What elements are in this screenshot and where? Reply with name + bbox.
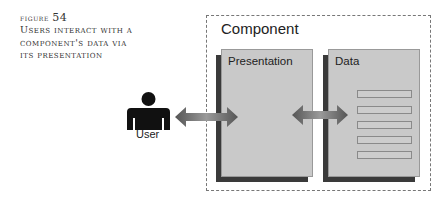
user-icon bbox=[127, 92, 170, 130]
user-presentation-arrow-icon bbox=[175, 107, 238, 127]
presentation-data-arrow-icon bbox=[292, 105, 348, 125]
user-label: User bbox=[136, 128, 159, 140]
diagram-graphics bbox=[0, 0, 447, 204]
